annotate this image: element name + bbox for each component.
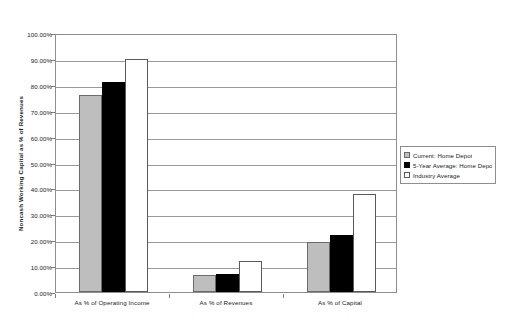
plot-area [55, 34, 397, 293]
bar [307, 242, 330, 293]
legend-swatch-icon [404, 152, 410, 158]
category-separator [283, 294, 284, 298]
y-axis-tick-label: 40.00% [4, 186, 52, 193]
y-axis-tick-label: 50.00% [4, 160, 52, 167]
bar-chart: Noncash Working Capital as % of Revenues… [0, 0, 510, 320]
category-separator [55, 294, 56, 298]
legend-item-label: 5-Year Average: Home Depot [413, 162, 492, 169]
category-separator [169, 294, 170, 298]
legend-swatch-icon [404, 162, 410, 168]
legend-swatch-icon [404, 172, 410, 178]
bar [330, 235, 353, 292]
x-axis-category-label: As % of Capital [283, 299, 397, 306]
y-axis-tick-label: 30.00% [4, 212, 52, 219]
legend-item[interactable]: 5-Year Average: Home Depot [404, 160, 492, 170]
legend-item[interactable]: Current: Home Depot [404, 150, 492, 160]
y-axis-tick-label: 0.00% [4, 290, 52, 297]
legend: Current: Home Depot5-Year Average: Home … [400, 146, 496, 184]
legend-item-label: Industry Average [413, 172, 460, 179]
x-axis-labels: As % of Operating IncomeAs % of Revenues… [55, 299, 397, 313]
y-axis-tick-label: 20.00% [4, 238, 52, 245]
bar [193, 275, 216, 292]
bar [239, 261, 262, 292]
bar [125, 59, 148, 292]
y-axis-tick-label: 10.00% [4, 264, 52, 271]
bar [353, 194, 376, 292]
y-axis-tick-labels: 100.00%90.00%80.00%70.00%60.00%50.00%40.… [0, 34, 52, 293]
category-separators [55, 293, 397, 298]
legend-item[interactable]: Industry Average [404, 170, 492, 180]
y-axis-tick-label: 80.00% [4, 82, 52, 89]
bar [79, 95, 102, 292]
y-axis-tick-label: 100.00% [4, 31, 52, 38]
y-axis-tick-label: 70.00% [4, 108, 52, 115]
gridline [56, 61, 396, 62]
legend-item-label: Current: Home Depot [413, 152, 472, 159]
bar [102, 82, 125, 292]
y-axis-tick-label: 90.00% [4, 56, 52, 63]
bar [216, 274, 239, 292]
x-axis-category-label: As % of Operating Income [55, 299, 169, 306]
x-axis-category-label: As % of Revenues [169, 299, 283, 306]
y-axis-tick-label: 60.00% [4, 134, 52, 141]
